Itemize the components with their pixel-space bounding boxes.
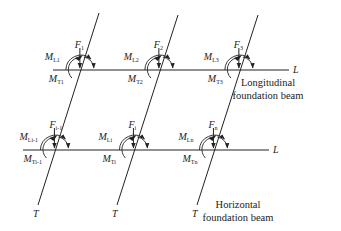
moment-arc-t-bottom_row-2 [202,138,211,158]
moment-arc-t-top_row-1 [147,58,156,78]
moment-t-label-bottom_row-1: MTi [101,153,116,165]
moment-arc-t-top_row-0 [68,58,77,78]
caption-longitudinal-line1: Longitudinal [241,77,295,88]
moment-t-label-bottom_row-2: MTn [181,153,197,165]
moment-l-label-top_row-0-sub: L1 [53,57,60,63]
moment-arrow-t-bottom_row-0 [58,137,68,148]
moment-arrow-t-top_row-0 [84,57,94,68]
force-label-top_row-0: F1 [74,39,84,51]
force-label-bottom_row-0: Fi-1 [48,119,62,131]
moment-l-label-top_row-1: ML2 [123,51,139,63]
caption-horizontal-line2: foundation beam [203,212,274,223]
moment-arc-t-top_row-2 [227,58,236,78]
axis-label-t-2: T [112,208,119,219]
moment-t-label-top_row-1: MT2 [127,73,143,85]
moment-t-label-top_row-2: MT3 [207,73,223,85]
force-label-bottom_row-2: Fn [207,119,217,131]
moment-t-label-bottom_row-0-sub: Ti-1 [32,159,42,165]
moment-l-label-top_row-0: ML1 [44,51,60,63]
moment-arrow-t-bottom_row-1 [137,137,147,148]
force-label-top_row-2-sub: 3 [240,45,243,51]
force-label-top_row-0-sub: 1 [81,45,84,51]
moment-l-label-bottom_row-0: MLi-1 [18,131,38,143]
moment-arc-t-bottom_row-0 [43,138,52,158]
moment-l-label-bottom_row-0-sub: Li-1 [28,137,38,143]
moment-l-label-bottom_row-2: MLn [177,131,193,143]
moment-l-label-bottom_row-2-sub: Ln [187,137,194,143]
moment-l-label-bottom_row-1: MLi [97,131,112,143]
caption-longitudinal-line2: foundation beam [233,90,304,101]
force-label-top_row-1: F2 [153,39,163,51]
force-label-top_row-2: F3 [233,39,243,51]
axis-label-t-1: T [33,208,40,219]
axis-label-l-bottom: L [272,144,279,155]
moment-l-label-top_row-2-sub: L3 [212,57,219,63]
caption-horizontal-line1: Horizontal [216,199,261,210]
moment-t-label-bottom_row-2-sub: Tn [191,159,198,165]
moment-l-label-top_row-1-sub: L2 [132,57,139,63]
moment-t-label-bottom_row-1-sub: Ti [111,159,116,165]
moment-t-label-top_row-0: MT1 [48,73,64,85]
moment-arrow-t-bottom_row-2 [217,137,227,148]
moment-l-label-top_row-2: ML3 [203,51,219,63]
transverse-beam-2 [117,15,178,205]
axis-label-l-top: L [292,64,299,75]
moment-arc-t-bottom_row-1 [122,138,131,158]
foundation-beam-diagram: L L T T T Longitudinal foundation beam H… [0,0,341,231]
moment-t-label-top_row-1-sub: T2 [136,79,143,85]
moment-t-label-top_row-0-sub: T1 [57,79,64,85]
moment-t-label-top_row-2-sub: T3 [216,79,223,85]
axis-label-t-3: T [192,208,199,219]
force-label-bottom_row-1: Fi [127,119,136,131]
force-label-bottom_row-0-sub: i-1 [56,125,63,131]
moment-l-label-bottom_row-1-sub: Li [107,137,113,143]
force-label-bottom_row-2-sub: n [215,125,218,131]
transverse-beam-3 [197,15,258,205]
force-label-bottom_row-1-sub: i [135,125,137,131]
moment-t-label-bottom_row-0: MTi-1 [22,153,41,165]
force-label-top_row-1-sub: 2 [160,45,163,51]
transverse-beam-1 [38,13,99,205]
